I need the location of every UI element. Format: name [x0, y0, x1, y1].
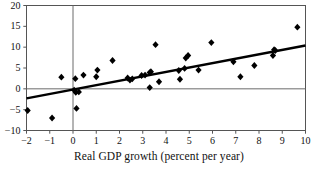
x-tick-label: 7 [224, 136, 248, 146]
data-point [195, 67, 201, 74]
x-tick-label: −1 [38, 136, 62, 146]
x-tick-label: 0 [61, 136, 85, 146]
data-point [80, 72, 86, 79]
data-point [177, 76, 183, 83]
data-point [182, 65, 188, 72]
x-tick-label: −2 [15, 136, 39, 146]
data-point [58, 74, 64, 81]
data-point [109, 57, 115, 64]
x-tick-label: 6 [201, 136, 225, 146]
zero-reference-lines [27, 6, 306, 131]
y-tick-label: −5 [0, 105, 21, 115]
data-point [294, 24, 300, 31]
y-tick-label: 5 [0, 63, 21, 73]
x-tick-label: 9 [270, 136, 294, 146]
x-tick-label: 1 [84, 136, 108, 146]
y-tick-label: 0 [0, 84, 21, 94]
x-tick-label: 10 [294, 136, 318, 146]
y-tick-label: −10 [0, 126, 21, 136]
axis-ticks [23, 6, 305, 134]
scatter-chart: −10−505101520 −2−1012345678910 Real GDP … [0, 0, 318, 175]
y-tick-label: 20 [0, 1, 21, 11]
data-point [93, 73, 99, 80]
data-point [208, 39, 214, 46]
x-tick-label: 2 [108, 136, 132, 146]
data-point [25, 107, 31, 114]
data-point [156, 78, 162, 85]
data-point [73, 105, 79, 112]
plot-frame [27, 6, 306, 131]
x-tick-label: 8 [247, 136, 271, 146]
regression-line [27, 46, 306, 99]
data-point [49, 115, 55, 122]
x-axis-title: Real GDP growth (percent per year) [0, 150, 318, 162]
data-point [152, 41, 158, 48]
y-tick-label: 10 [0, 42, 21, 52]
data-point [251, 62, 257, 69]
x-tick-label: 5 [177, 136, 201, 146]
data-point [147, 84, 153, 91]
data-point [237, 73, 243, 80]
plot-area [0, 0, 318, 175]
x-tick-label: 4 [154, 136, 178, 146]
data-point [94, 67, 100, 74]
x-tick-label: 3 [131, 136, 155, 146]
y-tick-label: 15 [0, 21, 21, 31]
